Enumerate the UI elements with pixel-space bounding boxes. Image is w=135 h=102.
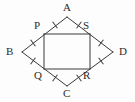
vertex-label-q: Q — [34, 70, 42, 81]
vertex-label-c: C — [63, 88, 70, 99]
vertex-label-b: B — [6, 46, 13, 57]
vertex-label-s: S — [83, 20, 89, 31]
geometry-figure: A B C D P S Q R — [0, 0, 135, 102]
vertex-label-a: A — [63, 2, 71, 13]
vertex-label-d: D — [119, 46, 127, 57]
tick-sd-icon — [99, 40, 104, 46]
rectangle-pqrs — [44, 34, 90, 69]
vertex-label-p: P — [34, 20, 40, 31]
vertex-label-r: R — [83, 70, 90, 81]
tick-rd-icon — [99, 58, 104, 64]
